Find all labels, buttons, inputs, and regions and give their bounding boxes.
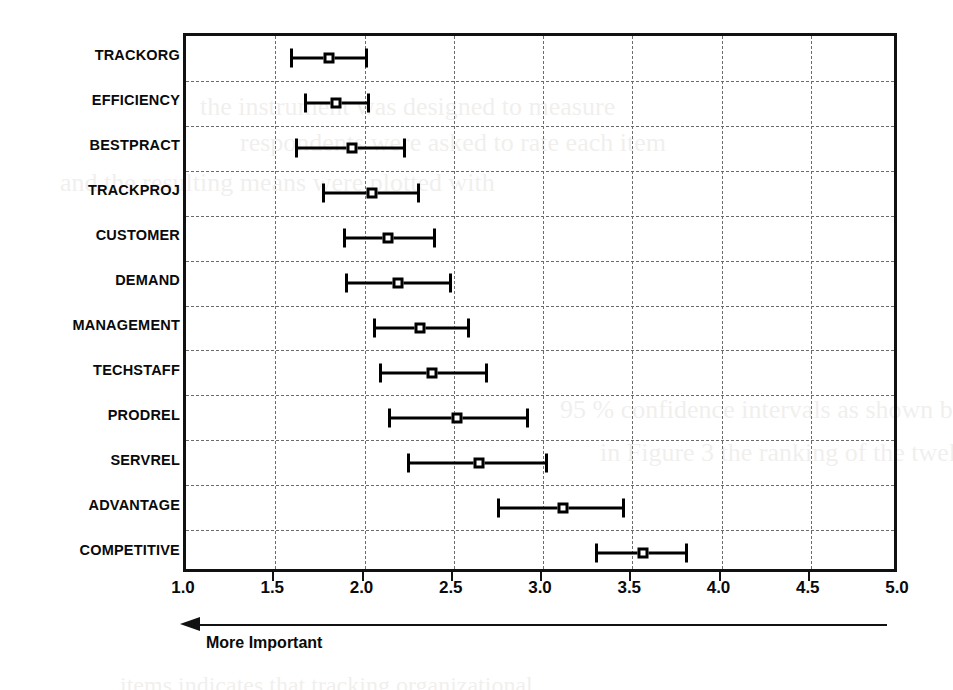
error-bar-cap-lower (407, 453, 410, 472)
error-bar-cap-upper (365, 49, 368, 68)
error-bar-cap-upper (622, 498, 625, 517)
error-bar-cap-lower (388, 408, 391, 427)
error-bar-cap-upper (545, 453, 548, 472)
mean-marker (557, 502, 568, 513)
category-label-competitive: COMPETITIVE (80, 542, 181, 558)
error-bar-cap-lower (373, 318, 376, 337)
category-label-demand: DEMAND (115, 272, 180, 288)
plot-area (183, 33, 897, 572)
gridline-vertical (722, 36, 723, 569)
category-label-trackorg: TRACKORG (95, 47, 180, 63)
gridline-horizontal (186, 485, 894, 486)
category-label-servrel: SERVREL (110, 452, 180, 468)
mean-marker (637, 547, 648, 558)
gridline-horizontal (186, 261, 894, 262)
gridline-vertical (275, 36, 276, 569)
mean-marker (330, 98, 341, 109)
mean-marker (323, 53, 334, 64)
gridline-horizontal (186, 126, 894, 127)
gridline-vertical (365, 36, 366, 569)
mean-marker (382, 233, 393, 244)
gridline-vertical (632, 36, 633, 569)
category-label-bestpract: BESTPRACT (90, 137, 180, 153)
x-axis-tick-label: 2.0 (350, 578, 374, 598)
mean-marker (473, 457, 484, 468)
error-bar-cap-lower (290, 49, 293, 68)
error-bar-cap-upper (526, 408, 529, 427)
category-label-management: MANAGEMENT (72, 317, 180, 333)
error-bar-cap-lower (497, 498, 500, 517)
error-bar-cap-lower (295, 139, 298, 158)
gridline-vertical (811, 36, 812, 569)
gridline-vertical (454, 36, 455, 569)
x-axis-tick-label: 4.0 (707, 578, 731, 598)
gridline-horizontal (186, 216, 894, 217)
gridline-horizontal (186, 395, 894, 396)
gridline-horizontal (186, 530, 894, 531)
error-bar-cap-upper (685, 543, 688, 562)
gridline-vertical (543, 36, 544, 569)
category-label-techstaff: TECHSTAFF (93, 362, 180, 378)
category-label-efficiency: EFFICIENCY (92, 92, 180, 108)
more-important-caption: More Important (206, 634, 322, 652)
confidence-interval-chart: TRACKORGEFFICIENCYBESTPRACTTRACKPROJCUST… (0, 0, 953, 690)
error-bar-cap-lower (343, 229, 346, 248)
error-bar-cap-upper (467, 318, 470, 337)
error-bar-cap-upper (403, 139, 406, 158)
error-bar-cap-upper (417, 184, 420, 203)
category-label-advantage: ADVANTAGE (89, 497, 180, 513)
error-bar-cap-lower (595, 543, 598, 562)
category-label-customer: CUSTOMER (96, 227, 180, 243)
x-axis-tick-label: 1.5 (260, 578, 284, 598)
x-axis-tick-label: 3.0 (528, 578, 552, 598)
x-axis-tick-label: 5.0 (885, 578, 909, 598)
error-bar-cap-lower (379, 363, 382, 382)
gridline-horizontal (186, 440, 894, 441)
x-axis-tick-label: 3.5 (617, 578, 641, 598)
error-bar-cap-lower (322, 184, 325, 203)
error-bar-cap-upper (367, 94, 370, 113)
error-bar-cap-upper (449, 274, 452, 293)
x-axis-tick-label: 2.5 (439, 578, 463, 598)
gridline-horizontal (186, 81, 894, 82)
mean-marker (414, 322, 425, 333)
category-label-prodrel: PRODREL (108, 407, 180, 423)
gridline-horizontal (186, 306, 894, 307)
error-bar-cap-upper (433, 229, 436, 248)
error-bar-cap-upper (485, 363, 488, 382)
x-axis-tick-label: 1.0 (171, 578, 195, 598)
mean-marker (452, 412, 463, 423)
error-bar-cap-lower (345, 274, 348, 293)
error-bar-cap-lower (304, 94, 307, 113)
mean-marker (366, 188, 377, 199)
mean-marker (393, 278, 404, 289)
gridline-horizontal (186, 171, 894, 172)
mean-marker (346, 143, 357, 154)
category-label-trackproj: TRACKPROJ (88, 182, 180, 198)
gridline-horizontal (186, 350, 894, 351)
x-axis-tick-label: 4.5 (796, 578, 820, 598)
more-important-arrow-line (196, 624, 887, 626)
mean-marker (427, 367, 438, 378)
